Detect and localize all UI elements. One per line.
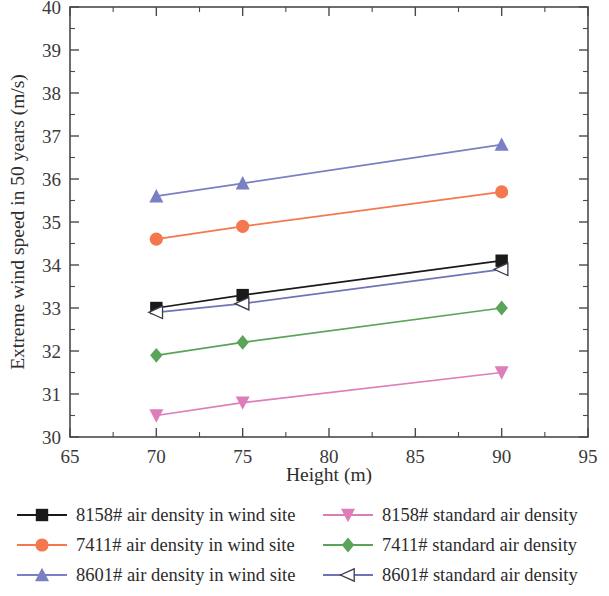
x-tick-label: 70 (147, 446, 166, 467)
legend-column-left: 8158# air density in wind site7411# air … (14, 500, 295, 590)
data-point-marker (150, 233, 163, 246)
y-axis-tick-labels: 3031323334353637383940 (42, 0, 62, 448)
y-axis-title: Extreme wind speed in 50 years (m/s) (7, 74, 29, 370)
y-tick-label: 33 (42, 298, 61, 319)
data-point-marker (340, 569, 354, 581)
legend-marker-triangle-up-filled (14, 564, 70, 586)
legend-item-label: 8158# air density in wind site (76, 506, 295, 525)
legend-column-right: 8158# standard air density7411# standard… (320, 500, 578, 590)
legend-item[interactable]: 8601# air density in wind site (14, 560, 295, 590)
legend-marker-diamond-filled (320, 534, 376, 556)
legend-swatch (14, 564, 70, 586)
y-tick-label: 39 (42, 40, 61, 61)
x-tick-label: 65 (61, 446, 80, 467)
legend-item-label: 8158# standard air density (382, 506, 578, 525)
y-tick-label: 37 (42, 126, 61, 147)
legend-item[interactable]: 7411# standard air density (320, 530, 578, 560)
legend-swatch (320, 504, 376, 526)
data-point-marker (495, 185, 508, 198)
y-tick-label: 30 (42, 427, 61, 448)
y-tick-label: 36 (42, 169, 61, 190)
legend-marker-triangle-down-filled (320, 504, 376, 526)
legend-item[interactable]: 7411# air density in wind site (14, 530, 295, 560)
line-chart-plot: 3031323334353637383940 65707580859095 He… (0, 0, 609, 500)
legend-swatch (320, 564, 376, 586)
legend-marker-square-filled (14, 504, 70, 526)
legend-marker-triangle-left-open (320, 564, 376, 586)
legend-item[interactable]: 8158# air density in wind site (14, 500, 295, 530)
data-point-marker (342, 538, 354, 553)
x-tick-label: 95 (579, 446, 598, 467)
chart-legend: 8158# air density in wind site7411# air … (0, 500, 609, 596)
legend-item[interactable]: 8601# standard air density (320, 560, 578, 590)
legend-item-label: 8601# standard air density (382, 566, 578, 585)
y-tick-label: 38 (42, 83, 61, 104)
x-tick-label: 90 (492, 446, 511, 467)
data-point-marker (236, 220, 249, 233)
legend-item[interactable]: 8158# standard air density (320, 500, 578, 530)
y-tick-label: 31 (42, 384, 61, 405)
legend-item-label: 7411# standard air density (382, 536, 577, 555)
y-tick-label: 40 (42, 0, 61, 18)
legend-swatch (14, 504, 70, 526)
y-tick-label: 34 (42, 255, 62, 276)
legend-marker-circle-filled (14, 534, 70, 556)
data-point-marker (35, 538, 48, 551)
chart-figure: 3031323334353637383940 65707580859095 He… (0, 0, 609, 596)
x-tick-label: 75 (233, 446, 252, 467)
legend-item-label: 7411# air density in wind site (76, 536, 295, 555)
legend-swatch (14, 534, 70, 556)
y-tick-label: 32 (42, 341, 61, 362)
x-tick-label: 85 (406, 446, 425, 467)
x-axis-title: Height (m) (286, 464, 372, 486)
plot-background (70, 7, 588, 437)
legend-swatch (320, 534, 376, 556)
data-point-marker (36, 509, 48, 521)
legend-item-label: 8601# air density in wind site (76, 566, 295, 585)
y-tick-label: 35 (42, 212, 61, 233)
